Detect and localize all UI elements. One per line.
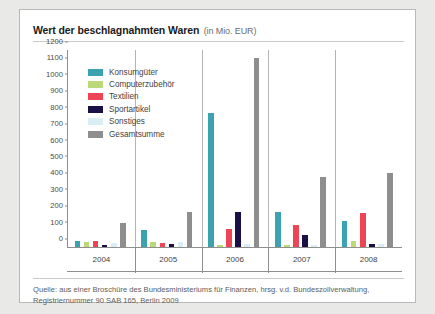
y-axis-tick-label: 600 bbox=[50, 135, 68, 144]
bar[interactable] bbox=[187, 212, 193, 247]
y-axis-tick-label: 800 bbox=[50, 102, 68, 111]
y-axis-tick-label: 100 bbox=[50, 217, 68, 226]
legend-item-label: Sonstiges bbox=[109, 117, 145, 126]
x-axis-tick-label: 2007 bbox=[268, 247, 335, 264]
bar[interactable] bbox=[320, 177, 326, 247]
bar[interactable] bbox=[342, 221, 348, 247]
page-subtitle: (in Mio. EUR) bbox=[204, 26, 257, 36]
x-axis-tick-label: 2005 bbox=[135, 247, 202, 264]
x-axis-tick-label: 2006 bbox=[202, 247, 269, 264]
screenshot-root: Wert der beschlagnahmten Waren (in Mio. … bbox=[0, 0, 435, 314]
legend-swatch-icon bbox=[88, 131, 103, 138]
y-axis-tick-label: 400 bbox=[50, 168, 68, 177]
legend-item-label: Textilien bbox=[109, 92, 139, 101]
y-axis-tick-label: 1000 bbox=[46, 69, 68, 78]
chart-legend: KonsumgüterComputerzubehörTextilienSport… bbox=[88, 66, 208, 140]
legend-item[interactable]: Sportartikel bbox=[88, 103, 208, 115]
y-axis-tick-label: 500 bbox=[50, 151, 68, 160]
y-axis-tick-label: 700 bbox=[50, 119, 68, 128]
legend-item[interactable]: Textilien bbox=[88, 91, 208, 103]
y-axis-tick-label: 900 bbox=[50, 86, 68, 95]
legend-swatch-icon bbox=[88, 69, 103, 76]
bar[interactable] bbox=[120, 223, 126, 247]
bar[interactable] bbox=[141, 230, 147, 247]
bar[interactable] bbox=[360, 213, 366, 247]
bar-group: 2008 bbox=[335, 50, 402, 247]
source-note: Quelle: aus einer Broschüre des Bundesmi… bbox=[33, 278, 404, 306]
legend-swatch-icon bbox=[88, 118, 103, 125]
x-axis-tick-label: 2004 bbox=[68, 247, 135, 264]
bar[interactable] bbox=[302, 235, 308, 247]
source-line-1: Quelle: aus einer Broschüre des Bundesmi… bbox=[33, 284, 404, 295]
bar[interactable] bbox=[293, 225, 299, 247]
y-axis-tick-label: 300 bbox=[50, 184, 68, 193]
page-title: Wert der beschlagnahmten Waren bbox=[33, 24, 199, 36]
bar[interactable] bbox=[254, 58, 260, 247]
chart-card: Wert der beschlagnahmten Waren (in Mio. … bbox=[19, 9, 416, 303]
legend-item-label: Sportartikel bbox=[109, 105, 150, 114]
bar[interactable] bbox=[235, 212, 241, 247]
legend-item-label: Konsumgüter bbox=[109, 68, 158, 77]
bar[interactable] bbox=[387, 173, 393, 247]
x-axis-line bbox=[67, 271, 402, 272]
y-axis-tick-label: 1100 bbox=[47, 53, 68, 62]
bar[interactable] bbox=[226, 229, 232, 247]
legend-item[interactable]: Gesamtsumme bbox=[88, 128, 208, 140]
y-axis-tick-label: 200 bbox=[50, 201, 68, 210]
y-axis-tick-label: 1200 bbox=[46, 37, 68, 46]
chart-title-bar: Wert der beschlagnahmten Waren (in Mio. … bbox=[33, 20, 404, 42]
legend-item[interactable]: Sonstiges bbox=[88, 116, 208, 128]
legend-item-label: Computerzubehör bbox=[109, 80, 175, 89]
bar-group: 2007 bbox=[268, 50, 335, 247]
bar[interactable] bbox=[275, 212, 281, 247]
legend-swatch-icon bbox=[88, 81, 103, 88]
y-axis-tick-label: 0 bbox=[59, 234, 68, 243]
legend-swatch-icon bbox=[88, 93, 103, 100]
bar-group: 2006 bbox=[202, 50, 269, 247]
legend-item[interactable]: Konsumgüter bbox=[88, 66, 208, 78]
legend-item-label: Gesamtsumme bbox=[109, 130, 165, 139]
legend-swatch-icon bbox=[88, 106, 103, 113]
source-line-2: Registriernummer 90 SAB 165, Berlin 2009 bbox=[33, 295, 404, 306]
legend-item[interactable]: Computerzubehör bbox=[88, 78, 208, 90]
x-axis-tick-label: 2008 bbox=[335, 247, 402, 264]
bar[interactable] bbox=[208, 113, 214, 247]
